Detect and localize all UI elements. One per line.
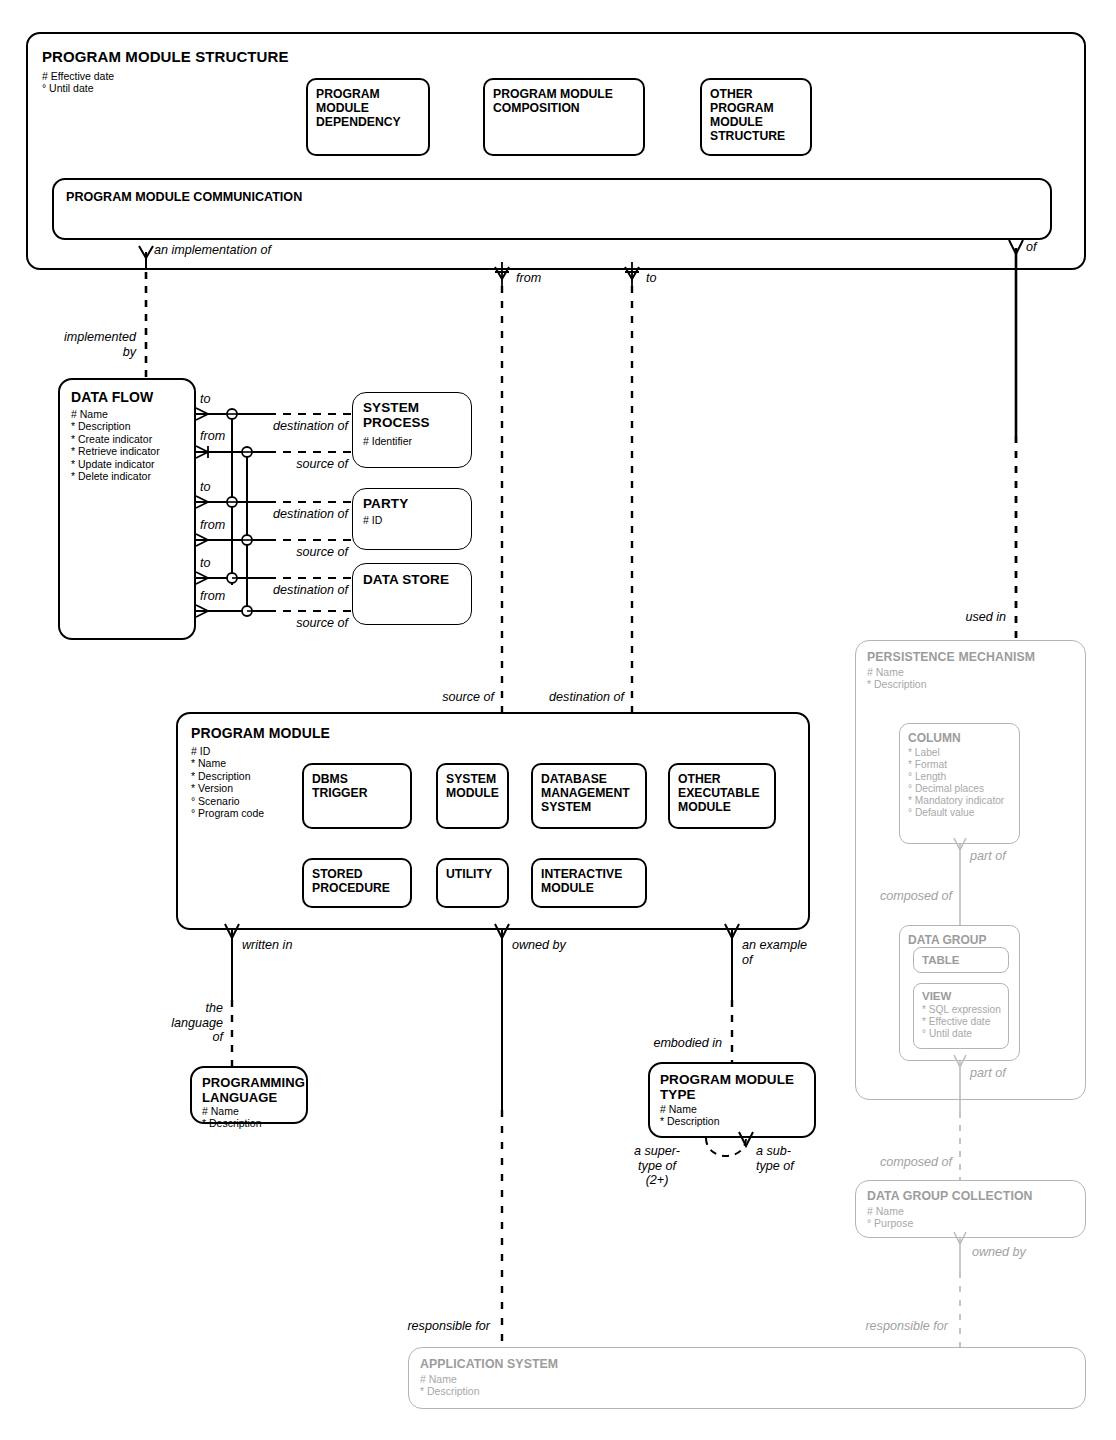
entity-name: PROGRAM MODULE [191, 726, 330, 741]
entity-programming-language[interactable]: PROGRAMMING LANGUAGE # Name * Descriptio… [190, 1066, 308, 1124]
subtype-database-management-system[interactable]: DATABASE MANAGEMENT SYSTEM [531, 763, 647, 829]
label-to-2: to [200, 480, 211, 495]
subtype-label: SYSTEM MODULE [446, 772, 503, 800]
label-to-3: to [200, 556, 211, 571]
entity-attributes: # Name ° Purpose [867, 1205, 913, 1230]
entity-name: VIEW [922, 989, 1004, 1003]
entity-data-flow[interactable]: DATA FLOW # Name * Description * Create … [58, 378, 196, 640]
subtype-system-module[interactable]: SYSTEM MODULE [436, 763, 509, 829]
label-part-of-data-group: part of [970, 1066, 1006, 1081]
label-destination-of-3: destination of [242, 583, 348, 598]
entity-application-system[interactable]: APPLICATION SYSTEM # Name * Description [408, 1347, 1086, 1409]
subtype-label: UTILITY [446, 867, 503, 881]
label-a-supertype-of: a super- type of (2+) [614, 1144, 700, 1188]
label-destination-of-program-module: destination of [518, 690, 624, 705]
subtype-label: STORED PROCEDURE [312, 867, 406, 895]
entity-program-module-type[interactable]: PROGRAM MODULE TYPE # Name * Description [648, 1062, 816, 1138]
line-an-example-of [725, 924, 739, 1062]
label-an-example-of: an example of [742, 938, 807, 967]
label-composed-of-data-group: composed of [852, 1155, 952, 1170]
label-to-top: to [646, 271, 657, 286]
label-an-implementation-of: an implementation of [154, 243, 271, 258]
line-to-top [625, 262, 639, 712]
subtype-dbms-trigger[interactable]: DBMS TRIGGER [302, 763, 412, 829]
subtype-label: PROGRAM MODULE DEPENDENCY [316, 87, 424, 129]
entity-column[interactable]: COLUMN * Label * Format ° Length ° Decim… [899, 723, 1020, 844]
entity-program-module-communication[interactable]: PROGRAM MODULE COMMUNICATION [52, 178, 1052, 240]
entity-data-store[interactable]: DATA STORE [352, 563, 472, 625]
entity-name: PERSISTENCE MECHANISM [867, 650, 1035, 665]
entity-name: COLUMN [908, 731, 1015, 745]
entity-attributes: # Identifier [363, 435, 412, 447]
label-destination-of-1: destination of [242, 419, 348, 434]
entity-view[interactable]: VIEW * SQL expression * Effective date °… [913, 983, 1009, 1049]
subtype-label: INTERACTIVE MODULE [541, 867, 641, 895]
entity-table[interactable]: TABLE [913, 947, 1009, 973]
entity-data-group-collection[interactable]: DATA GROUP COLLECTION # Name ° Purpose [855, 1180, 1086, 1238]
subtype-program-module-composition[interactable]: PROGRAM MODULE COMPOSITION [483, 78, 645, 156]
label-used-in: used in [940, 610, 1006, 625]
subtype-interactive-module[interactable]: INTERACTIVE MODULE [531, 858, 647, 908]
entity-name: PARTY [363, 497, 408, 512]
subtype-program-module-dependency[interactable]: PROGRAM MODULE DEPENDENCY [306, 78, 430, 156]
entity-name: DATA GROUP [908, 933, 1015, 947]
line-of [1009, 240, 1023, 640]
label-owned-by: owned by [512, 938, 566, 953]
label-owned-by-data-group-collection: owned by [972, 1245, 1026, 1260]
line-from-top [495, 262, 509, 712]
line-written-in [225, 924, 239, 1066]
subtype-other-executable-module[interactable]: OTHER EXECUTABLE MODULE [668, 763, 776, 829]
label-the-language-of: the language of [106, 1001, 223, 1045]
subtype-label: DBMS TRIGGER [312, 772, 406, 800]
label-a-subtype-of: a sub- type of [756, 1144, 794, 1173]
entity-party[interactable]: PARTY # ID [352, 488, 472, 550]
entity-attributes: # Name * Description [867, 666, 927, 691]
label-written-in: written in [242, 938, 292, 953]
line-collection-owned-by-application-system [954, 1232, 966, 1347]
entity-attributes: # ID * Name * Description * Version ° Sc… [191, 745, 264, 819]
subtype-label: OTHER EXECUTABLE MODULE [678, 772, 770, 814]
label-from-top: from [516, 271, 541, 286]
entity-attributes: # Name * Description [420, 1373, 480, 1398]
entity-attributes: # Effective date ° Until date [42, 70, 114, 95]
entity-attributes: # Name * Description [202, 1105, 262, 1130]
subtype-other-program-module-structure[interactable]: OTHER PROGRAM MODULE STRUCTURE [700, 78, 812, 156]
entity-name: PROGRAMMING LANGUAGE [202, 1076, 305, 1105]
subtype-label: PROGRAM MODULE COMPOSITION [493, 87, 639, 115]
entity-name: DATA STORE [363, 573, 449, 588]
label-composed-of-column: composed of [852, 889, 952, 904]
label-part-of-column: part of [970, 849, 1006, 864]
entity-name: APPLICATION SYSTEM [420, 1357, 558, 1372]
entity-name: PROGRAM MODULE COMMUNICATION [66, 190, 1046, 204]
label-source-of-1: source of [242, 457, 348, 472]
label-of: of [1026, 240, 1037, 255]
label-implemented-by: implemented by [16, 330, 136, 359]
label-responsible-for-right: responsible for [830, 1319, 948, 1334]
label-responsible-for-left: responsible for [372, 1319, 490, 1334]
entity-name: DATA GROUP COLLECTION [867, 1189, 1033, 1204]
entity-system-process[interactable]: SYSTEM PROCESS # Identifier [352, 392, 472, 468]
subtype-label: OTHER PROGRAM MODULE STRUCTURE [710, 87, 806, 143]
entity-attributes: # ID [363, 514, 382, 526]
label-source-of-program-module: source of [390, 690, 494, 705]
subtype-utility[interactable]: UTILITY [436, 858, 509, 908]
subtype-stored-procedure[interactable]: STORED PROCEDURE [302, 858, 412, 908]
label-destination-of-2: destination of [242, 507, 348, 522]
line-owned-by [495, 924, 509, 1347]
entity-name: PROGRAM MODULE TYPE [660, 1072, 794, 1102]
entity-name: PROGRAM MODULE STRUCTURE [42, 48, 289, 65]
entity-attributes: # Name * Description * Create indicator … [71, 408, 160, 482]
entity-name: TABLE [922, 953, 1004, 967]
er-diagram-canvas: PROGRAM MODULE STRUCTURE # Effective dat… [0, 0, 1116, 1440]
entity-name: DATA FLOW [71, 390, 153, 405]
entity-attributes: * Label * Format ° Length ° Decimal plac… [908, 747, 1004, 819]
label-from-1: from [200, 429, 225, 444]
label-from-2: from [200, 518, 225, 533]
label-source-of-3: source of [242, 616, 348, 631]
label-to-1: to [200, 392, 211, 407]
label-from-3: from [200, 589, 225, 604]
entity-attributes: * SQL expression * Effective date ° Unti… [922, 1004, 1001, 1040]
label-source-of-2: source of [242, 545, 348, 560]
label-embodied-in: embodied in [608, 1036, 722, 1051]
subtype-label: DATABASE MANAGEMENT SYSTEM [541, 772, 641, 814]
